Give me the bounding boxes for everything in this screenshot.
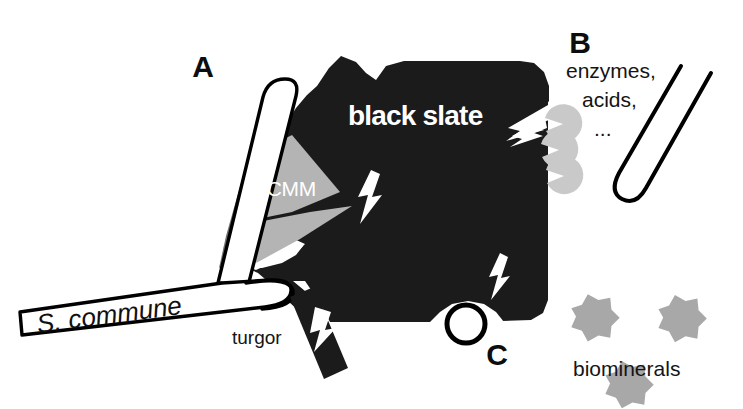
panel-label-b: B: [569, 26, 591, 59]
ellipsis-label: ...: [594, 117, 612, 140]
figure-canvas: A B C black slate ECMM S. commune turgor…: [0, 0, 743, 409]
panel-label-c: C: [486, 338, 508, 371]
biominerals-label: biominerals: [573, 357, 680, 380]
diagram-svg: A B C black slate ECMM S. commune turgor…: [0, 0, 743, 409]
panel-label-a: A: [192, 50, 214, 83]
enzymes-label: enzymes,: [566, 59, 656, 82]
acids-label: acids,: [582, 88, 637, 111]
turgor-label: turgor: [232, 327, 282, 348]
substrate-label: black slate: [348, 100, 483, 131]
ecmm-label: ECMM: [253, 177, 316, 200]
vesicle-ring-icon: [447, 305, 485, 343]
